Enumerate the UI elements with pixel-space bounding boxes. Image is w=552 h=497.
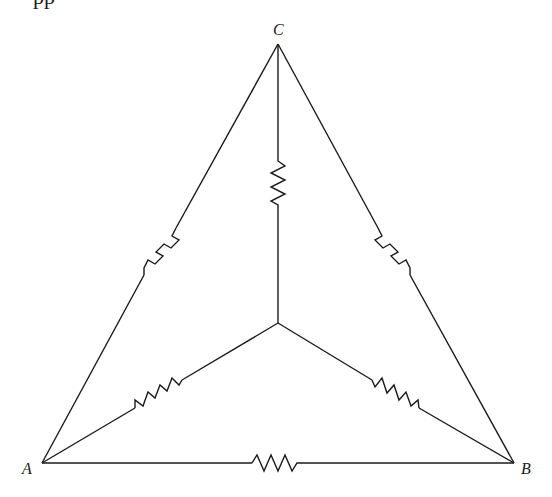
vertex-label-a: A: [21, 460, 32, 477]
resistor-ab-icon: [252, 455, 302, 471]
vertex-label-b: B: [521, 460, 531, 477]
wire-o-to-resistor-bo: [278, 323, 372, 380]
delta-wye-circuit-diagram: pp C A B: [0, 0, 552, 497]
resistor-co-icon: [271, 156, 285, 210]
wire-c-to-resistor-cb: [278, 44, 378, 228]
delta-edge-ab: [42, 455, 514, 471]
wye-branch-bo: [278, 323, 514, 463]
vertex-label-c: C: [273, 21, 284, 38]
resistor-bo-icon: [372, 378, 419, 408]
wye-branch-co: [271, 44, 285, 323]
delta-edge-cb: [278, 44, 514, 463]
resistor-ca-icon: [144, 228, 179, 275]
wire-a-to-resistor-ao: [42, 408, 135, 463]
wire-resistor-ca-to-a: [42, 275, 144, 463]
resistor-cb-icon: [375, 228, 410, 275]
wire-resistor-ao-to-o: [182, 323, 278, 380]
wye-branch-ao: [42, 323, 278, 463]
wire-resistor-bo-to-b: [419, 408, 514, 463]
wire-resistor-cb-to-b: [410, 275, 514, 463]
delta-edge-ca: [42, 44, 278, 463]
resistor-ao-icon: [135, 378, 182, 408]
cut-off-text: pp: [33, 0, 55, 9]
wire-c-to-resistor-ca: [176, 44, 278, 228]
